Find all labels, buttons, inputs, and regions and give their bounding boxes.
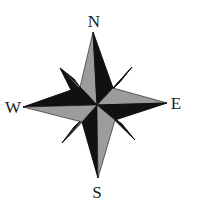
major-points [23, 32, 167, 178]
label-south: S [92, 183, 101, 202]
compass-rose: N E S W [0, 0, 198, 215]
label-north: N [88, 12, 100, 31]
label-west: W [5, 98, 22, 117]
label-east: E [171, 94, 181, 113]
